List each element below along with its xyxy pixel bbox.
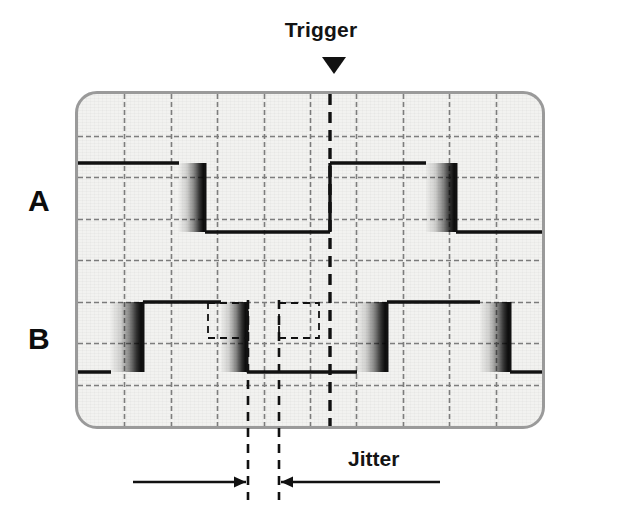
channel-label-b: B xyxy=(28,324,50,354)
arrow-right-icon-head xyxy=(234,477,246,488)
scope-screen xyxy=(75,91,545,429)
channel-label-a: A xyxy=(28,186,50,216)
arrow-left-icon-head xyxy=(281,477,293,488)
graticule-grid xyxy=(78,94,542,426)
jitter-label: Jitter xyxy=(348,447,399,471)
trigger-label: Trigger xyxy=(0,18,620,42)
oscilloscope-jitter-diagram: Trigger A B Jitter xyxy=(0,0,620,518)
triangle-down-icon xyxy=(322,57,346,74)
